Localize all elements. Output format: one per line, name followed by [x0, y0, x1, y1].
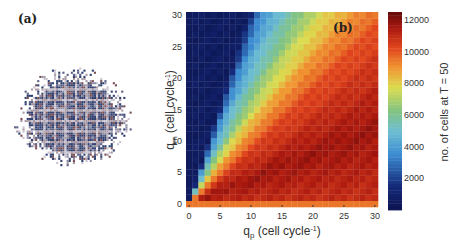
heatmap-cell: [211, 25, 217, 32]
heatmap-cell: [341, 157, 347, 164]
heatmap-cell: [192, 12, 198, 19]
colorbar-tick-label: 4000: [404, 142, 424, 152]
heatmap-cell: [366, 188, 372, 195]
heatmap-cell: [366, 100, 372, 107]
heatmap-cell: [273, 56, 279, 63]
heatmap-cell: [304, 50, 310, 57]
heatmap-cell: [291, 81, 297, 88]
heatmap-cell: [316, 50, 322, 57]
heatmap-cell: [279, 194, 285, 201]
heatmap-cell: [260, 62, 266, 69]
heatmap-cell: [310, 144, 316, 151]
heatmap-cell: [260, 18, 266, 25]
heatmap-cell: [198, 150, 204, 157]
heatmap-cell: [359, 94, 365, 101]
heatmap-cell: [279, 100, 285, 107]
heatmap-cell: [192, 188, 198, 195]
heatmap-cell: [254, 201, 260, 208]
colorbar-tick-label: 8000: [404, 78, 424, 88]
heatmap-cell: [285, 100, 291, 107]
heatmap-cell: [316, 182, 322, 189]
heatmap-cell: [186, 125, 192, 132]
colorbar-segment: [388, 174, 402, 178]
heatmap-cell: [279, 138, 285, 145]
heatmap-cell: [192, 37, 198, 44]
heatmap-cell: [285, 87, 291, 94]
heatmap-cell: [285, 150, 291, 157]
heatmap-cell: [347, 176, 353, 183]
heatmap-cell: [335, 144, 341, 151]
heatmap-cell: [254, 100, 260, 107]
y-tick-label: 5: [177, 167, 182, 177]
heatmap-cell: [260, 150, 266, 157]
heatmap-cell: [291, 50, 297, 57]
heatmap-cell: [267, 150, 273, 157]
heatmap-cell: [316, 106, 322, 113]
heatmap-cell: [260, 12, 266, 19]
heatmap-cell: [254, 132, 260, 139]
heatmap-cell: [322, 43, 328, 50]
heatmap-cell: [322, 182, 328, 189]
heatmap-cell: [223, 18, 229, 25]
heatmap-cell: [242, 25, 248, 32]
heatmap-cell: [372, 87, 378, 94]
heatmap-cell: [211, 37, 217, 44]
heatmap-cell: [297, 69, 303, 76]
heatmap-cell: [279, 87, 285, 94]
heatmap-cell: [267, 43, 273, 50]
heatmap-cell: [372, 182, 378, 189]
heatmap-cell: [310, 176, 316, 183]
colorbar-segment: [388, 12, 402, 16]
heatmap-cell: [279, 176, 285, 183]
heatmap-cell: [353, 87, 359, 94]
heatmap-cell: [297, 106, 303, 113]
heatmap-cell: [192, 150, 198, 157]
heatmap-cell: [260, 176, 266, 183]
heatmap-cell: [297, 182, 303, 189]
heatmap-cell: [260, 138, 266, 145]
heatmap-cell: [335, 94, 341, 101]
heatmap-cell: [192, 194, 198, 201]
heatmap-cell: [186, 81, 192, 88]
heatmap-cell: [254, 125, 260, 132]
heatmap-cell: [328, 125, 334, 132]
colorbar-ticks: 20004000600080001000012000: [404, 15, 429, 183]
heatmap-cell: [310, 100, 316, 107]
heatmap-cell: [211, 75, 217, 82]
heatmap-cell: [192, 157, 198, 164]
heatmap-cell: [273, 163, 279, 170]
heatmap-cell: [347, 194, 353, 201]
heatmap-cell: [186, 144, 192, 151]
heatmap-cell: [192, 106, 198, 113]
heatmap-cell: [347, 87, 353, 94]
heatmap-cell: [186, 18, 192, 25]
heatmap-cell: [198, 50, 204, 57]
colorbar-segment: [388, 207, 402, 211]
heatmap-cell: [322, 62, 328, 69]
y-axis-label: qm (cell cycle-1): [163, 70, 179, 150]
heatmap-cell: [223, 163, 229, 170]
heatmap-cell: [260, 163, 266, 170]
heatmap-cell: [322, 25, 328, 32]
heatmap-cell: [192, 69, 198, 76]
heatmap-cell: [229, 62, 235, 69]
heatmap-cell: [248, 119, 254, 126]
heatmap-cell: [297, 188, 303, 195]
colorbar-segment: [388, 131, 402, 135]
heatmap-cell: [285, 43, 291, 50]
colorbar-segment: [388, 52, 402, 56]
heatmap-cell: [279, 113, 285, 120]
heatmap-cell: [267, 138, 273, 145]
colorbar-segment: [388, 15, 402, 19]
heatmap-cell: [198, 138, 204, 145]
heatmap-cell: [211, 69, 217, 76]
heatmap-cell: [223, 75, 229, 82]
heatmap-cell: [291, 94, 297, 101]
heatmap-cell: [205, 194, 211, 201]
heatmap-cell: [279, 43, 285, 50]
heatmap-cell: [310, 69, 316, 76]
heatmap-cell: [316, 188, 322, 195]
heatmap-cell: [236, 113, 242, 120]
heatmap-cell: [198, 75, 204, 82]
heatmap-cell: [304, 188, 310, 195]
